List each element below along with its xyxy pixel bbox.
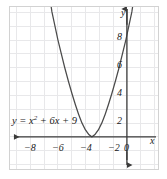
equation-part-2: + 6x + 9 [37,115,77,126]
ytick-label-4: 4 [117,88,122,98]
equation-annotation: y = x2 + 6x + 9 [12,116,77,127]
x-axis-label: x [150,136,154,146]
xtick-label-minus-4: −4 [80,143,92,153]
ytick-label-2: 2 [117,116,122,126]
ytick-label-6: 6 [117,60,122,70]
equation-part-1: y = x [12,115,34,126]
ytick-label-8: 8 [117,32,122,42]
xtick-label-minus-8: −8 [24,143,36,153]
xtick-label-minus-6: −6 [52,143,64,153]
xtick-label-zero: 0 [124,143,129,153]
y-axis-label: y [121,8,125,18]
xtick-label-minus-2: −2 [108,143,120,153]
parabola-graph-figure: −8 −6 −4 −2 0 8 6 4 2 y x y = x2 + 6x + … [0,0,167,179]
